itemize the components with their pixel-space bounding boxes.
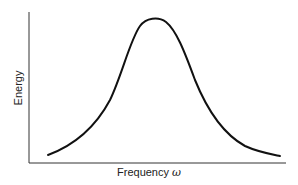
omega-symbol: ω [172, 166, 181, 179]
x-axis-label-text: Frequency [117, 166, 169, 178]
y-axis-label: Energy [12, 68, 24, 108]
chart-plot-area [0, 0, 298, 185]
energy-curve [48, 19, 280, 156]
x-axis-label: Frequencyω [0, 166, 298, 179]
